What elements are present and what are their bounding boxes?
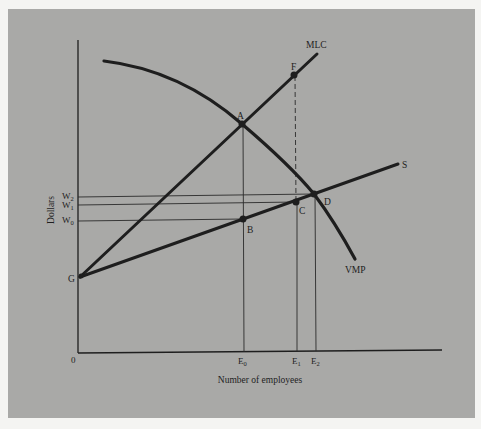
point-f-label: F (291, 62, 296, 72)
supply-label: S (402, 160, 407, 170)
e1-dashed-guide-line (295, 76, 296, 202)
point-a-label: A (237, 111, 244, 121)
vmp-label: VMP (345, 265, 366, 275)
monopsony-diagram: MLC S VMP A B C D F G W2 W1 W0 0 E0 E1 E… (0, 0, 481, 429)
w2-guide-line (78, 194, 314, 197)
point-b-marker (240, 216, 247, 223)
w0-label: W0 (62, 215, 74, 226)
point-d-label: D (324, 197, 331, 207)
point-c-marker (293, 199, 300, 206)
point-f-marker (291, 72, 298, 79)
point-c-label: C (299, 206, 305, 216)
point-g-marker (79, 274, 84, 279)
point-a-marker (239, 121, 246, 128)
y-axis-title: Dollars (46, 196, 56, 224)
mlc-label: MLC (306, 40, 327, 50)
e0-label: E0 (238, 356, 247, 367)
x-axis-title: Number of employees (218, 375, 303, 385)
point-b-label: B (247, 225, 253, 235)
vmp-curve (104, 61, 355, 259)
w1-guide-line (78, 202, 297, 205)
x-axis (78, 350, 442, 353)
point-g-label: G (68, 274, 75, 284)
e2-label: E2 (311, 356, 320, 367)
mlc-line (80, 54, 317, 277)
origin-label: 0 (71, 355, 76, 365)
w0-guide-line (78, 219, 243, 221)
e1-label: E1 (292, 356, 301, 367)
e2-guide-line (315, 194, 316, 351)
point-d-marker (311, 191, 318, 198)
e0-guide-line (243, 124, 244, 352)
